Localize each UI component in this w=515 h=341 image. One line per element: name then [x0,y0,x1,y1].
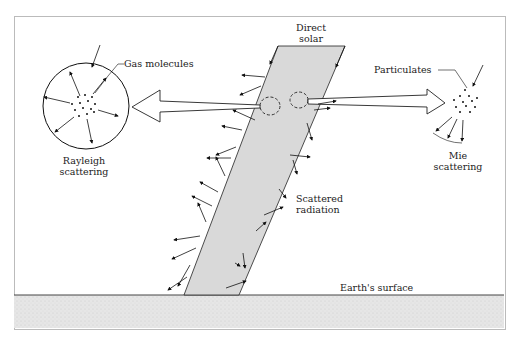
label-mie-scattering: Mie scattering [430,150,486,172]
magnify-arrow-right [308,89,445,114]
label-direct-solar: Direct solar [290,22,332,44]
rayleigh-circle [43,45,129,149]
label-rayleigh-scattering: Rayleigh scattering [56,155,112,177]
label-earth-surface: Earth's surface [340,282,413,293]
earth-ground [14,295,504,328]
label-scattered-radiation: Scattered radiation [296,193,343,215]
direct-solar-beam [184,46,345,295]
label-particulates: Particulates [374,64,431,75]
label-gas-molecules: Gas molecules [124,58,194,69]
